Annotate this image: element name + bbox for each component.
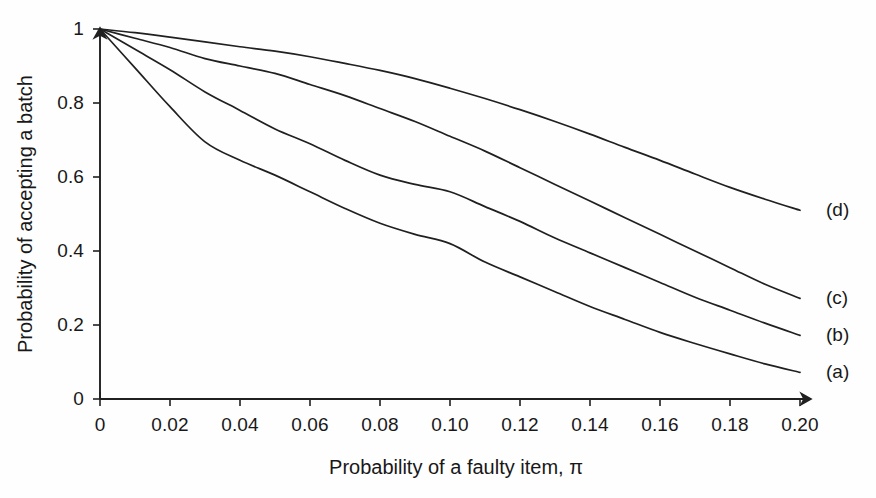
y-tick-label-0: 0: [52, 388, 84, 410]
axes-group: [100, 33, 806, 399]
curve-c: [100, 29, 800, 298]
curve-label-b: (b): [826, 324, 849, 346]
y-tick-label-1: 1: [52, 18, 84, 40]
curve-b: [100, 29, 800, 335]
x-axis-label-text: Probability of a faulty item, π: [329, 456, 583, 478]
x-tick-label-0: 0: [95, 414, 106, 436]
x-tick-label-0_06: 0.06: [291, 414, 328, 436]
operating-characteristic-chart: 0 0.2 0.4 0.6 0.8 1 0 0.02 0.04 0.06 0.0…: [0, 0, 876, 498]
x-tick-label-0_14: 0.14: [571, 414, 608, 436]
y-axis-label: Probability of accepting a batch: [14, 14, 42, 414]
x-tick-label-0_10: 0.10: [431, 414, 468, 436]
x-tick-label-0_20: 0.20: [781, 414, 818, 436]
curve-label-a: (a): [826, 361, 849, 383]
x-tick-label-0_16: 0.16: [641, 414, 678, 436]
x-tick-label-0_18: 0.18: [711, 414, 748, 436]
x-tick-label-0_08: 0.08: [361, 414, 398, 436]
curves-group: [100, 29, 800, 372]
x-tick-label-0_02: 0.02: [151, 414, 188, 436]
x-tick-label-0_04: 0.04: [221, 414, 258, 436]
curve-d: [100, 29, 800, 210]
curve-a: [100, 29, 800, 372]
x-axis-label: Probability of a faulty item, π: [100, 456, 812, 479]
curve-label-c: (c): [826, 287, 848, 309]
curve-label-d: (d): [826, 199, 849, 221]
x-tick-label-0_12: 0.12: [501, 414, 538, 436]
